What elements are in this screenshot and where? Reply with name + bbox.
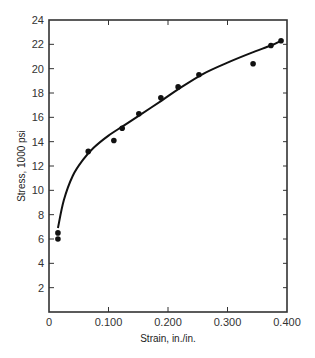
y-tick-label: 20 (32, 63, 44, 75)
y-tick-label: 4 (38, 257, 44, 269)
x-tick-label: 0 (46, 316, 52, 328)
y-tick-label: 8 (38, 209, 44, 221)
data-point (158, 95, 164, 101)
data-point (250, 61, 256, 67)
y-tick-label: 14 (32, 136, 44, 148)
data-points (55, 38, 284, 242)
y-tick-label: 10 (32, 184, 44, 196)
x-axis-ticks: 00.1000.2000.3000.400 (46, 20, 301, 328)
data-point (175, 84, 181, 90)
y-tick-label: 2 (38, 282, 44, 294)
x-tick-label: 0.200 (154, 316, 182, 328)
data-point (55, 236, 61, 242)
data-point (278, 38, 284, 44)
y-tick-label: 22 (32, 38, 44, 50)
data-point (268, 43, 274, 49)
x-tick-label: 0.100 (95, 316, 123, 328)
data-point (119, 125, 125, 131)
x-tick-label: 0.400 (273, 316, 301, 328)
x-axis-title: Strain, in./in. (140, 333, 196, 344)
y-tick-label: 18 (32, 87, 44, 99)
data-point (196, 72, 202, 78)
stress-strain-chart: 00.1000.2000.3000.400 246810121416182022… (0, 0, 315, 358)
y-axis-ticks: 24681012141618202224 (32, 14, 287, 294)
fitted-curve (58, 41, 281, 228)
y-tick-label: 16 (32, 111, 44, 123)
data-point (85, 149, 91, 155)
data-point (55, 230, 61, 236)
y-tick-label: 6 (38, 233, 44, 245)
data-point (111, 138, 117, 144)
y-axis-title: Stress, 1000 psi (16, 130, 27, 202)
x-tick-label: 0.300 (214, 316, 242, 328)
data-point (136, 111, 142, 117)
y-tick-label: 12 (32, 160, 44, 172)
y-tick-label: 24 (32, 14, 44, 26)
